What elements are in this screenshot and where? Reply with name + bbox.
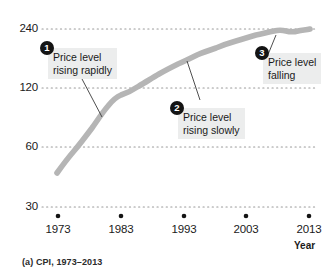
xtick-dot-1993 <box>182 214 187 219</box>
annotation-3-badge: 3 <box>255 46 269 60</box>
ytick-label-120: 120 <box>4 81 38 93</box>
annotation-3-line2: falling <box>268 69 316 82</box>
xtick-label-1973: 1973 <box>35 223 81 235</box>
annotation-1-badge: 1 <box>40 41 54 55</box>
annotation-3-box: Price level falling <box>263 53 321 84</box>
x-axis-title: Year <box>294 240 315 251</box>
annotation-1-line1: Price level <box>53 51 101 63</box>
leader-line-1 <box>82 79 102 117</box>
ytick-label-60: 60 <box>4 140 38 152</box>
ytick-label-240: 240 <box>4 22 38 34</box>
leader-line-2 <box>187 61 200 100</box>
xtick-label-2003: 2003 <box>223 223 269 235</box>
xtick-label-1993: 1993 <box>161 223 207 235</box>
annotation-1-box: Price level rising rapidly <box>48 48 117 79</box>
xtick-dot-1973 <box>56 214 61 219</box>
annotation-2-line1: Price level <box>183 111 231 123</box>
annotation-2-box: Price level rising slowly <box>178 108 245 139</box>
annotation-1-line2: rising rapidly <box>53 64 112 77</box>
xtick-label-2013: 2013 <box>286 223 326 235</box>
xtick-dot-1983 <box>119 214 124 219</box>
xtick-dot-2003 <box>244 214 249 219</box>
xtick-dot-2013 <box>307 214 312 219</box>
cpi-line-chart: 240 120 60 30 1973 1983 1993 2003 2013 Y… <box>0 0 326 268</box>
ytick-label-30: 30 <box>4 200 38 212</box>
annotation-3-line1: Price level <box>268 56 316 68</box>
annotation-2-line2: rising slowly <box>183 124 240 137</box>
figure-caption: (a) CPI, 1973–2013 <box>22 257 102 267</box>
xtick-dot-group <box>56 214 312 219</box>
xtick-label-1983: 1983 <box>98 223 144 235</box>
annotation-2-badge: 2 <box>170 101 184 115</box>
